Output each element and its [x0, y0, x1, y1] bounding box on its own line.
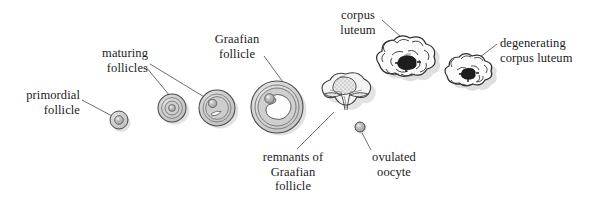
ovarian-cycle-diagram: primordial follicle maturing follicles G… — [0, 0, 596, 218]
maturing-follicle-early — [158, 94, 190, 125]
label-primordial-follicle: primordial follicle — [4, 88, 80, 117]
ovulated-oocyte — [355, 122, 366, 133]
label-corpus-luteum: corpus luteum — [330, 8, 386, 37]
label-degenerating-corpus-luteum: degenerating corpus luteum — [500, 36, 594, 65]
leader-maturing-follicle-late — [150, 64, 206, 98]
label-ovulated-oocyte: ovulated oocyte — [363, 150, 425, 179]
label-remnants-of-graafian-follicle: remnants of Graafian follicle — [238, 150, 348, 194]
label-graafian-follicle: Graafian follicle — [204, 32, 270, 61]
graafian-follicle — [251, 81, 307, 136]
label-maturing-follicles: maturing follicles — [76, 46, 148, 75]
leader-maturing-follicle-early — [146, 67, 170, 96]
remnants-of-graafian-follicle — [322, 73, 376, 110]
leader-primordial-follicle — [82, 100, 112, 116]
corpus-luteum — [377, 36, 441, 81]
primordial-follicle — [110, 111, 131, 132]
leader-ovulated-oocyte — [361, 131, 371, 150]
degenerating-corpus-luteum — [445, 54, 497, 91]
maturing-follicle-late — [199, 90, 239, 129]
